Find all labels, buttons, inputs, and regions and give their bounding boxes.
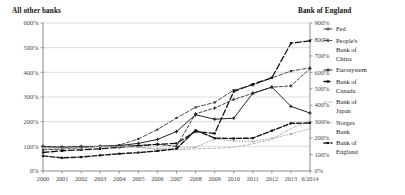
legend-label: England — [336, 148, 358, 155]
x-axis-tick-label: 2000 — [37, 175, 49, 182]
x-axis-tick-label: 2007 — [170, 175, 182, 182]
x-axis-tick-label: 2009 — [208, 175, 220, 182]
y-axis-tick-label: 0% — [30, 167, 39, 174]
legend-label: Fed — [336, 25, 347, 32]
legend-label: Eurosystem — [336, 66, 367, 73]
y-axis-tick-label: 100% — [24, 143, 40, 150]
legend-label: Japan — [336, 107, 352, 114]
legend-label: Bank of — [336, 139, 358, 146]
y-axis-tick-label: 300% — [24, 93, 40, 100]
x-axis-tick-label: 2012 — [266, 175, 278, 182]
x-axis-tick-label: 2011 — [247, 175, 259, 182]
y-axis-tick-label: 600% — [24, 19, 40, 26]
x-axis-tick-label: 2006 — [151, 175, 163, 182]
y2-axis-tick-label: 500% — [315, 85, 331, 92]
y-axis-tick-label: 400% — [24, 69, 40, 76]
x-axis-tick-label: 2005 — [132, 175, 144, 182]
y2-axis-tick-label: 900% — [315, 19, 331, 26]
legend-label: Bank of — [336, 46, 358, 53]
series-bank-of-canada — [42, 40, 311, 154]
legend-label: People's — [336, 37, 358, 44]
x-axis-tick-label: 2013 — [285, 175, 297, 182]
y2-axis-tick-label: 400% — [315, 101, 331, 108]
x-axis-tick-label: 6/2014 — [301, 175, 318, 182]
chart-figure: All other banks Bank of England 0%100%20… — [0, 0, 405, 195]
legend-item: Eurosystem — [324, 66, 367, 73]
y2-axis-tick-label: 100% — [315, 151, 331, 158]
series-people-s-bank-of-china — [42, 67, 311, 151]
y-axis-tick-label: 500% — [24, 44, 40, 51]
x-axis-tick-label: 2008 — [189, 175, 201, 182]
y2-axis-tick-label: 300% — [315, 118, 331, 125]
x-axis-tick-label: 2003 — [94, 175, 106, 182]
legend-label: Bank of — [336, 78, 358, 85]
y2-axis-tick-label: 700% — [315, 52, 331, 59]
legend-label: Norges — [336, 119, 355, 126]
legend-label: Bank — [336, 128, 350, 135]
x-axis-tick-label: 2001 — [56, 175, 68, 182]
y-axis-tick-label: 200% — [24, 118, 40, 125]
series-bank-of-england — [42, 122, 311, 159]
x-axis-tick-label: 2002 — [75, 175, 87, 182]
series-fed — [41, 67, 311, 149]
x-axis-tick-label: 2010 — [228, 175, 240, 182]
line-chart-plot: 0%100%200%300%400%500%600%0%100%200%300%… — [0, 0, 405, 195]
x-axis-tick-label: 2004 — [113, 175, 125, 182]
y2-axis-tick-label: 200% — [315, 134, 331, 141]
legend-label: China — [336, 55, 352, 62]
legend-label: Bank of — [336, 98, 358, 105]
legend-label: Canada — [336, 87, 356, 94]
y2-axis-tick-label: 0% — [315, 167, 324, 174]
